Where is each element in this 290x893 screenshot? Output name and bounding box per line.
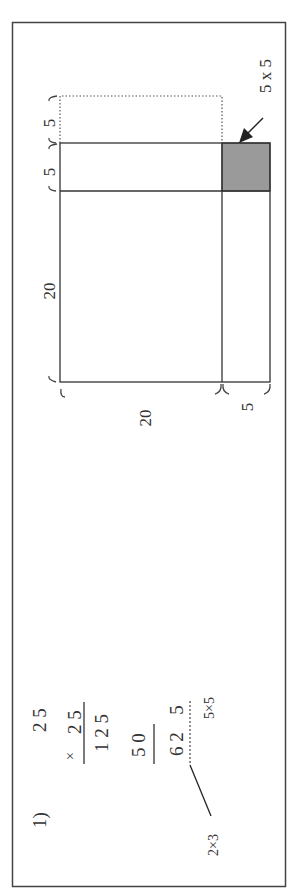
bottom-braces: [61, 384, 270, 397]
left-braces: [49, 96, 57, 382]
label-side-small-vertical-2: 5: [40, 168, 59, 177]
partial-product-1: 1 2 5: [91, 714, 112, 752]
callout-arrow-line: [247, 118, 263, 134]
dotted-extension: [60, 96, 222, 143]
multiplier-sign: ×: [63, 752, 78, 760]
note-2x3-leader-line: [190, 765, 211, 816]
multiplier: 2 5: [64, 710, 85, 734]
product-head: 6 2: [166, 732, 187, 756]
product-tail: 5: [166, 705, 187, 715]
area-model-diagram: 5 5 20 20 5 5 x 5 1) 2 5 × 2 5 1 2 5 5 0…: [0, 0, 290, 893]
label-side-small-vertical-1: 5: [40, 119, 59, 128]
label-side-big-vertical: 20: [40, 283, 59, 300]
note-2x3: 2×3: [206, 834, 221, 856]
problem-number: 1): [29, 812, 51, 828]
shaded-5x5-square: [222, 143, 270, 191]
multiplicand: 2 5: [29, 708, 50, 732]
label-side-big-horizontal: 20: [136, 410, 155, 427]
callout-label: 5 x 5: [256, 59, 275, 93]
note-5x5: 5×5: [202, 697, 217, 719]
label-side-small-horizontal: 5: [238, 403, 257, 412]
partial-product-2: 5 0: [128, 733, 149, 757]
